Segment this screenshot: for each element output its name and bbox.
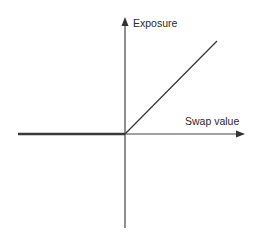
y-axis-label: Exposure <box>133 17 178 29</box>
y-axis <box>122 17 129 228</box>
exposure-diagram: Exposure Swap value <box>0 0 258 241</box>
y-axis-arrow-icon <box>122 17 129 26</box>
x-axis-label: Swap value <box>185 115 239 127</box>
x-axis-arrow-icon <box>236 131 245 138</box>
